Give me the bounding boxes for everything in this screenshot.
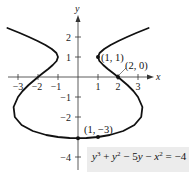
y-tick-labels: 2 1 −1 −2 −4 bbox=[60, 32, 71, 163]
y-axis-label: y bbox=[74, 3, 80, 14]
point-2-0 bbox=[116, 75, 120, 79]
point-label-1-1: (1, 1) bbox=[101, 52, 124, 64]
svg-text:1: 1 bbox=[96, 81, 101, 92]
equation-label: y3 + y2 − 5y − x2 = −4 bbox=[92, 150, 186, 162]
svg-text:2: 2 bbox=[66, 32, 71, 43]
svg-text:1: 1 bbox=[66, 52, 71, 63]
point-label-2-0: (2, 0) bbox=[125, 60, 148, 72]
x-axis-label: x bbox=[155, 71, 161, 82]
svg-text:−1: −1 bbox=[51, 81, 62, 92]
point-1-1 bbox=[96, 55, 100, 59]
svg-text:2: 2 bbox=[116, 81, 121, 92]
y-axis-arrow-icon bbox=[76, 15, 81, 22]
x-axis-arrow-icon bbox=[147, 75, 154, 80]
svg-text:3: 3 bbox=[136, 81, 141, 92]
point-1-m3 bbox=[96, 135, 100, 139]
svg-text:−2: −2 bbox=[32, 81, 43, 92]
point-0-bottom bbox=[76, 136, 80, 140]
svg-text:−2: −2 bbox=[60, 112, 71, 123]
point-label-1-m3: (1, −3) bbox=[84, 124, 113, 136]
svg-text:−1: −1 bbox=[60, 92, 71, 103]
svg-text:−4: −4 bbox=[60, 152, 71, 163]
svg-text:−3: −3 bbox=[13, 81, 24, 92]
